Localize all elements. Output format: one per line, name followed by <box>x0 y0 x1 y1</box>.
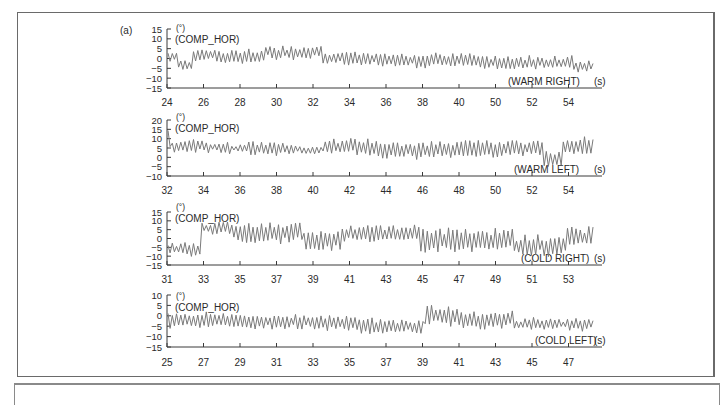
y-tick-label: 10 <box>151 290 162 301</box>
x-tick-label: 50 <box>490 185 502 196</box>
x-tick-label: 52 <box>526 185 538 196</box>
x-tick-label: 40 <box>307 185 319 196</box>
signal-trace <box>168 222 593 257</box>
series-name-label: (COMP_HOR) <box>175 123 239 134</box>
condition-label: (WARM LEFT) <box>514 164 579 175</box>
x-tick-label: 52 <box>526 97 538 108</box>
x-tick-label: 28 <box>234 97 246 108</box>
x-tick-label: 54 <box>563 97 575 108</box>
y-tick-label: −15 <box>146 342 162 353</box>
y-tick-label: 0 <box>157 310 162 321</box>
y-tick-label: −10 <box>146 331 162 342</box>
y-tick-label: −5 <box>151 321 162 332</box>
x-tick-label: 39 <box>417 357 429 368</box>
condition-label: (COLD LEFT) <box>535 335 597 346</box>
condition-label: (WARM RIGHT) <box>508 76 580 87</box>
x-tick-label: 45 <box>526 357 538 368</box>
x-tick-label: 31 <box>161 274 173 285</box>
x-tick-label: 43 <box>490 357 502 368</box>
y-unit-label: (°) <box>176 291 185 301</box>
x-tick-label: 35 <box>344 357 356 368</box>
x-tick-label: 49 <box>490 274 502 285</box>
x-tick-label: 37 <box>271 274 283 285</box>
x-tick-label: 54 <box>563 185 575 196</box>
x-unit-label: (s) <box>594 253 606 264</box>
x-tick-label: 51 <box>526 274 538 285</box>
y-tick-label: −15 <box>146 83 162 94</box>
x-tick-label: 47 <box>563 357 575 368</box>
x-tick-label: 45 <box>417 274 429 285</box>
x-unit-label: (s) <box>594 335 606 346</box>
y-tick-label: −15 <box>146 260 162 271</box>
panel-label: (a) <box>120 25 132 36</box>
x-tick-label: 40 <box>453 97 465 108</box>
x-unit-label: (s) <box>594 164 606 175</box>
x-tick-label: 26 <box>198 97 210 108</box>
x-tick-label: 33 <box>307 357 319 368</box>
x-tick-label: 33 <box>198 274 210 285</box>
x-tick-label: 47 <box>453 274 465 285</box>
x-tick-label: 42 <box>344 185 356 196</box>
x-tick-label: 48 <box>453 185 465 196</box>
y-tick-label: 5 <box>157 300 162 311</box>
x-tick-label: 29 <box>234 357 246 368</box>
x-tick-label: 36 <box>234 185 246 196</box>
x-tick-label: 32 <box>161 185 173 196</box>
x-tick-label: 38 <box>417 97 429 108</box>
x-tick-label: 53 <box>563 274 575 285</box>
y-tick-label: −10 <box>146 171 162 182</box>
series-name-label: (COMP_HOR) <box>175 34 239 45</box>
x-tick-label: 34 <box>344 97 356 108</box>
x-tick-label: 46 <box>417 185 429 196</box>
series-name-label: (COMP_HOR) <box>175 213 239 224</box>
y-unit-label: (°) <box>176 112 185 122</box>
y-unit-label: (°) <box>176 202 185 212</box>
x-tick-label: 41 <box>453 357 465 368</box>
x-tick-label: 35 <box>234 274 246 285</box>
x-unit-label: (s) <box>594 76 606 87</box>
signal-trace <box>168 46 593 72</box>
x-tick-label: 25 <box>161 357 173 368</box>
x-tick-label: 44 <box>380 185 392 196</box>
x-tick-label: 41 <box>344 274 356 285</box>
x-tick-label: 36 <box>380 97 392 108</box>
x-tick-label: 31 <box>271 357 283 368</box>
x-tick-label: 50 <box>490 97 502 108</box>
x-tick-label: 38 <box>271 185 283 196</box>
y-unit-label: (°) <box>176 23 185 33</box>
x-tick-label: 43 <box>380 274 392 285</box>
x-tick-label: 32 <box>307 97 319 108</box>
x-tick-label: 34 <box>198 185 210 196</box>
x-tick-label: 37 <box>380 357 392 368</box>
x-tick-label: 27 <box>198 357 210 368</box>
x-tick-label: 39 <box>307 274 319 285</box>
signal-trace <box>168 131 593 167</box>
series-name-label: (COMP_HOR) <box>175 302 239 313</box>
x-tick-label: 30 <box>271 97 283 108</box>
x-tick-label: 24 <box>161 97 173 108</box>
